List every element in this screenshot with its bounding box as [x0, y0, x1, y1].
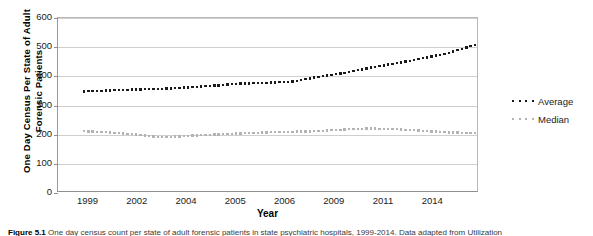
x-tick-label-1999: 1999 — [66, 195, 110, 206]
data-point-median — [239, 132, 241, 134]
data-point-average — [469, 45, 471, 47]
data-point-median — [274, 131, 276, 133]
data-point-average — [435, 54, 437, 56]
data-point-average — [148, 88, 150, 90]
data-point-average — [152, 88, 154, 90]
x-tick-label-2002: 2002 — [115, 195, 159, 206]
data-point-average — [204, 85, 206, 87]
y-tick-label-100: 100 — [22, 158, 52, 168]
data-point-median — [439, 131, 441, 133]
data-point-average — [313, 76, 315, 78]
data-point-median — [465, 132, 467, 134]
data-point-median — [157, 136, 159, 138]
x-axis-title: Year — [57, 208, 478, 219]
gridline — [58, 76, 477, 77]
data-point-average — [105, 89, 107, 91]
gridline — [58, 135, 477, 136]
data-point-average — [209, 85, 211, 87]
data-point-median — [170, 136, 172, 138]
data-point-median — [200, 134, 202, 136]
data-point-median — [109, 131, 111, 133]
y-axis-tick-labels: 0100200300400500600 — [22, 0, 52, 236]
data-point-average — [374, 66, 376, 68]
y-tick-label-200: 200 — [22, 129, 52, 139]
legend-item-average[interactable]: Average — [512, 92, 592, 110]
data-point-average — [126, 89, 128, 91]
legend-swatch-average-icon — [512, 99, 534, 103]
data-point-average — [191, 86, 193, 88]
y-tick-mark — [54, 193, 58, 194]
data-point-median — [209, 134, 211, 136]
data-point-median — [474, 132, 476, 134]
data-point-median — [213, 133, 215, 135]
data-point-median — [396, 128, 398, 130]
data-point-average — [400, 61, 402, 63]
data-point-average — [157, 88, 159, 90]
x-tick-label-2004: 2004 — [164, 195, 208, 206]
data-point-average — [274, 81, 276, 83]
data-point-median — [252, 132, 254, 134]
data-point-median — [400, 128, 402, 130]
data-point-average — [474, 44, 476, 46]
y-tick-label-300: 300 — [22, 100, 52, 110]
legend-item-median[interactable]: Median — [512, 110, 592, 128]
data-point-median — [374, 127, 376, 129]
data-point-average — [91, 90, 93, 92]
data-point-median — [383, 128, 385, 130]
data-point-median — [178, 135, 180, 137]
data-point-median — [322, 130, 324, 132]
data-point-average — [278, 81, 280, 83]
data-point-median — [131, 133, 133, 135]
data-point-median — [300, 130, 302, 132]
data-point-average — [83, 90, 85, 92]
data-point-median — [391, 128, 393, 130]
data-point-average — [365, 67, 367, 69]
x-tick-label-2005: 2005 — [213, 195, 257, 206]
y-tick-mark — [54, 18, 58, 19]
data-point-average — [456, 49, 458, 51]
data-point-average — [343, 72, 345, 74]
data-point-median — [330, 129, 332, 131]
data-point-average — [113, 89, 115, 91]
data-point-average — [200, 85, 202, 87]
data-point-median — [183, 135, 185, 137]
gridline — [58, 47, 477, 48]
data-point-average — [287, 81, 289, 83]
legend-label-median: Median — [538, 114, 569, 125]
data-point-average — [413, 59, 415, 61]
data-point-average — [174, 87, 176, 89]
gridline — [58, 164, 477, 165]
data-point-average — [409, 60, 411, 62]
data-point-median — [456, 131, 458, 133]
data-point-median — [191, 134, 193, 136]
data-point-average — [300, 79, 302, 81]
data-point-median — [174, 135, 176, 137]
data-point-average — [296, 80, 298, 82]
figure-caption-text: One day census count per state of adult … — [48, 228, 502, 236]
data-point-median — [417, 129, 419, 131]
data-point-median — [357, 128, 359, 130]
y-tick-mark — [54, 164, 58, 165]
data-point-median — [235, 132, 237, 134]
data-point-average — [317, 76, 319, 78]
data-point-average — [131, 88, 133, 90]
data-point-average — [404, 60, 406, 62]
data-point-average — [326, 74, 328, 76]
data-point-average — [322, 75, 324, 77]
data-point-average — [261, 82, 263, 84]
data-point-average — [430, 55, 432, 57]
data-point-median — [430, 130, 432, 132]
data-point-median — [257, 132, 259, 134]
data-point-average — [226, 83, 228, 85]
gridline — [58, 106, 477, 107]
data-point-median — [426, 130, 428, 132]
data-point-median — [435, 130, 437, 132]
data-point-median — [144, 134, 146, 136]
x-tick-label-2014: 2014 — [410, 195, 454, 206]
data-point-average — [352, 70, 354, 72]
y-tick-mark — [54, 76, 58, 77]
data-point-median — [352, 128, 354, 130]
data-point-average — [443, 53, 445, 55]
x-tick-label-2011: 2011 — [361, 195, 405, 206]
data-point-average — [461, 48, 463, 50]
